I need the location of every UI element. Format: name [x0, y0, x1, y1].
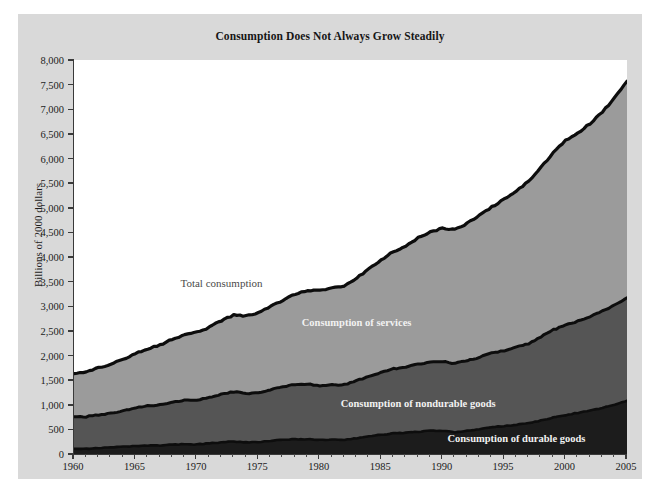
x-minor-tick [466, 454, 467, 457]
x-minor-tick [171, 454, 172, 457]
x-minor-tick [232, 454, 233, 457]
x-tick-mark [625, 454, 626, 459]
y-tick-label: 7,000 [40, 104, 64, 115]
y-tick-mark [68, 256, 74, 258]
x-minor-tick [453, 454, 454, 457]
y-tick-mark [68, 306, 74, 308]
x-minor-tick [97, 454, 98, 457]
y-tick-label: 1,000 [40, 399, 64, 410]
x-minor-tick [589, 454, 590, 457]
y-tick-label: 5,500 [40, 178, 64, 189]
annotation-consumption-of-durable-goods: Consumption of durable goods [447, 432, 585, 443]
x-tick-mark [257, 454, 258, 459]
y-tick-label: 2,000 [40, 350, 64, 361]
x-minor-tick [478, 454, 479, 457]
y-tick-label: 5,000 [40, 202, 64, 213]
y-tick-mark [68, 330, 74, 332]
x-minor-tick [576, 454, 577, 457]
chart-title: Consumption Does Not Always Grow Steadil… [18, 30, 642, 42]
y-tick-label: 2,500 [40, 325, 64, 336]
x-minor-tick [515, 454, 516, 457]
y-tick-label: 8,000 [40, 55, 64, 66]
x-minor-tick [527, 454, 528, 457]
x-minor-tick [331, 454, 332, 457]
y-tick-mark [68, 84, 74, 86]
y-tick-label: 7,500 [40, 79, 64, 90]
x-minor-tick [294, 454, 295, 457]
x-tick-label: 1995 [493, 461, 514, 472]
annotation-total-consumption: Total consumption [180, 277, 262, 289]
y-tick-mark [68, 281, 74, 283]
x-tick-mark [503, 454, 504, 459]
x-tick-label: 1970 [185, 461, 206, 472]
x-minor-tick [85, 454, 86, 457]
x-minor-tick [601, 454, 602, 457]
figure-root: Consumption Does Not Always Grow Steadil… [0, 0, 651, 501]
y-tick-mark [68, 158, 74, 160]
y-tick-mark [68, 207, 74, 209]
stacked-area-plot [74, 60, 627, 454]
y-tick-label: 6,000 [40, 153, 64, 164]
y-tick-mark [68, 355, 74, 357]
y-tick-label: 3,000 [40, 301, 64, 312]
y-tick-label: 3,500 [40, 276, 64, 287]
x-tick-mark [195, 454, 196, 459]
x-tick-label: 2005 [616, 461, 637, 472]
y-tick-label: 1,500 [40, 375, 64, 386]
x-minor-tick [220, 454, 221, 457]
y-tick-mark [68, 59, 74, 61]
annotation-consumption-of-nondurable-goods: Consumption of nondurable goods [341, 398, 496, 409]
x-tick-label: 2000 [554, 461, 575, 472]
x-tick-label: 1980 [308, 461, 329, 472]
x-minor-tick [367, 454, 368, 457]
x-minor-tick [404, 454, 405, 457]
x-minor-tick [417, 454, 418, 457]
x-minor-tick [281, 454, 282, 457]
x-minor-tick [355, 454, 356, 457]
x-minor-tick [208, 454, 209, 457]
y-tick-mark [68, 182, 74, 184]
x-minor-tick [552, 454, 553, 457]
x-minor-tick [183, 454, 184, 457]
y-tick-mark [68, 429, 74, 431]
x-tick-mark [564, 454, 565, 459]
x-minor-tick [306, 454, 307, 457]
y-tick-label: 4,500 [40, 227, 64, 238]
x-minor-tick [343, 454, 344, 457]
x-minor-tick [490, 454, 491, 457]
y-tick-label: 0 [59, 449, 64, 460]
x-tick-label: 1975 [247, 461, 268, 472]
x-tick-mark [441, 454, 442, 459]
y-tick-mark [68, 109, 74, 111]
x-minor-tick [613, 454, 614, 457]
x-minor-tick [429, 454, 430, 457]
chart-panel: Consumption Does Not Always Grow Steadil… [18, 14, 642, 479]
annotation-consumption-of-services: Consumption of services [302, 317, 412, 328]
x-tick-mark [380, 454, 381, 459]
y-tick-mark [68, 133, 74, 135]
x-tick-mark [72, 454, 73, 459]
y-tick-label: 500 [48, 424, 64, 435]
y-tick-mark [68, 404, 74, 406]
x-minor-tick [146, 454, 147, 457]
y-tick-mark [68, 232, 74, 234]
x-tick-label: 1960 [63, 461, 84, 472]
x-minor-tick [122, 454, 123, 457]
y-tick-label: 6,500 [40, 128, 64, 139]
x-tick-label: 1990 [431, 461, 452, 472]
x-tick-mark [134, 454, 135, 459]
x-minor-tick [269, 454, 270, 457]
x-minor-tick [109, 454, 110, 457]
x-minor-tick [392, 454, 393, 457]
x-tick-mark [318, 454, 319, 459]
y-tick-label: 4,000 [40, 252, 64, 263]
x-minor-tick [245, 454, 246, 457]
x-tick-label: 1985 [370, 461, 391, 472]
y-tick-mark [68, 379, 74, 381]
plot-area: Total consumption Consumption of service… [73, 60, 627, 455]
x-minor-tick [539, 454, 540, 457]
x-minor-tick [159, 454, 160, 457]
x-tick-label: 1965 [124, 461, 145, 472]
